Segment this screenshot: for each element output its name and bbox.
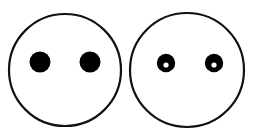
left-face-outline xyxy=(9,14,121,126)
right-face-outline xyxy=(130,13,244,127)
right-face-eye-left-pupil-highlight xyxy=(163,62,168,67)
left-face-eye-left-icon xyxy=(30,52,51,73)
right-face-eye-left-icon xyxy=(157,54,175,72)
left-face-group xyxy=(9,14,121,126)
right-face-group xyxy=(130,13,244,127)
right-face-eye-right-icon xyxy=(205,54,223,72)
left-face-eye-right-icon xyxy=(80,52,101,73)
two-faces-figure xyxy=(0,0,253,137)
right-face-eye-right-pupil-highlight xyxy=(211,62,216,67)
figure-canvas xyxy=(0,0,253,137)
